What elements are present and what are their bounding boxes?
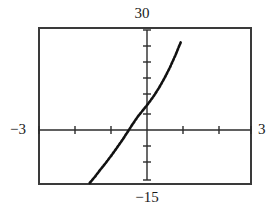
data-series-curve [90, 42, 181, 182]
calculator-graph-screenshot: 30 −15 −3 3 [0, 0, 280, 215]
y-axis-max-label: 30 [2, 6, 280, 21]
x-axis-max-label: 3 [258, 122, 266, 137]
x-axis-min-label: −3 [10, 122, 26, 137]
y-axis-min-label: −15 [7, 190, 280, 205]
curve-path [90, 42, 181, 182]
plot-canvas [38, 27, 252, 185]
x-axis [38, 126, 252, 134]
